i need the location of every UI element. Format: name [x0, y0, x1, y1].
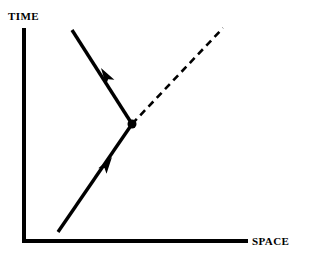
emitted-dashed-worldline: [132, 28, 223, 124]
interaction-vertex-dot: [128, 120, 137, 129]
arrowheads-group: [98, 68, 114, 174]
spacetime-diagram-figure: TIME SPACE: [0, 0, 309, 264]
outgoing-worldline: [72, 30, 132, 124]
time-axis-label: TIME: [8, 11, 39, 22]
diagram-canvas: [0, 0, 309, 264]
space-axis-label: SPACE: [252, 236, 289, 247]
worldlines-group: [58, 28, 223, 232]
incoming-worldline: [58, 124, 132, 232]
